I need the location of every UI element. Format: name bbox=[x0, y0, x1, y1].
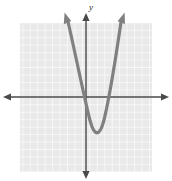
y-axis-top-arrowhead bbox=[82, 13, 89, 21]
y-axis-bottom-arrowhead bbox=[82, 171, 89, 179]
parabola-left-arrowhead bbox=[64, 13, 71, 25]
parabola-right-arrowhead bbox=[118, 13, 125, 25]
y-axis-label: y bbox=[88, 2, 93, 12]
graph-canvas: y bbox=[0, 0, 172, 181]
x-axis-left-arrowhead bbox=[3, 93, 11, 100]
x-axis-right-arrowhead bbox=[161, 93, 169, 100]
parabola-figure: y bbox=[0, 0, 172, 181]
